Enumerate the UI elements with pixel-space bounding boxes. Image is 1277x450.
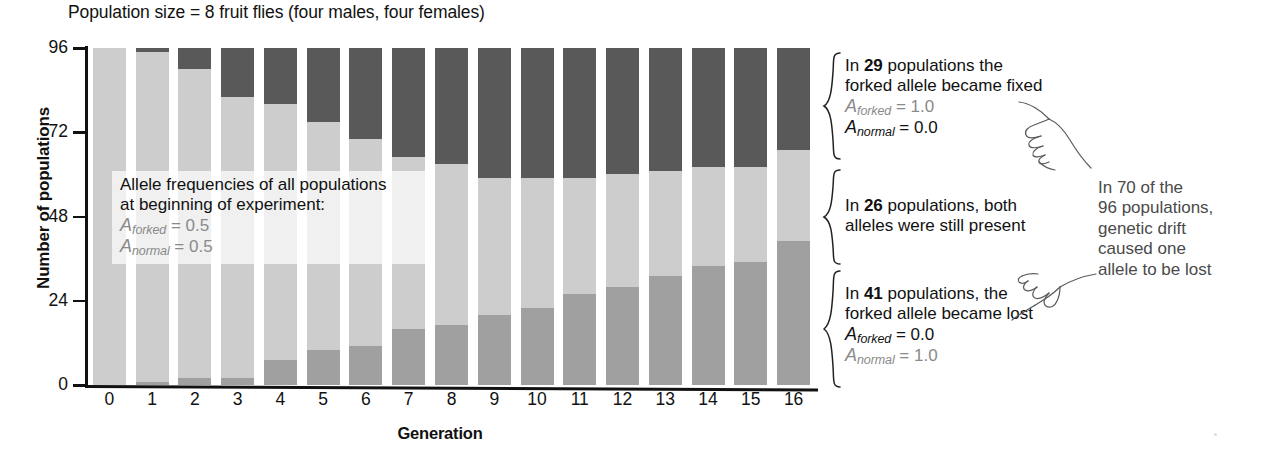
bar-segment-both-alleles-still-present <box>692 167 725 265</box>
annotation-forked-lost-line-2: forked allele became lost <box>845 304 1033 324</box>
bar-segment-both-alleles-still-present <box>435 164 468 325</box>
annotation-both-present-line-1: In 26 populations, both <box>845 196 1025 216</box>
bar-segment-forked-allele-became-fixed <box>435 48 468 164</box>
bar-segment-forked-allele-became-lost <box>264 360 297 385</box>
bar-segment-forked-allele-became-lost <box>649 276 682 385</box>
x-axis-tick-label-12: 12 <box>603 391 643 409</box>
inset-a-normal: Anormal = 0.5 <box>120 236 428 257</box>
chart-title: Population size = 8 fruit flies (four ma… <box>68 2 485 23</box>
y-axis-tick <box>73 384 86 387</box>
x-axis-tick-label-15: 15 <box>731 391 771 409</box>
bar-segment-forked-allele-became-fixed <box>349 48 382 139</box>
bar-segment-both-alleles-still-present <box>734 167 767 262</box>
brace-lost <box>822 270 844 388</box>
brace-fixed <box>822 52 844 160</box>
bar-segment-forked-allele-became-lost <box>307 350 340 385</box>
bar-segment-forked-allele-became-fixed <box>692 48 725 167</box>
inset-note-line-1: Allele frequencies of all populations <box>120 175 428 195</box>
y-axis-tick <box>73 300 86 303</box>
bar-segment-forked-allele-became-fixed <box>178 48 211 69</box>
bar-segment-forked-allele-became-fixed <box>392 48 425 157</box>
x-axis-tick-label-10: 10 <box>517 391 557 409</box>
x-axis-tick-label-2: 2 <box>175 391 215 409</box>
bar-generation-12 <box>606 48 639 385</box>
annotation-drift-line-4: caused one <box>1098 239 1213 259</box>
x-axis-tick-label-5: 5 <box>303 391 343 409</box>
y-axis-tick <box>73 47 86 50</box>
annotation-drift-line-5: allele to be lost <box>1098 260 1213 280</box>
bar-segment-forked-allele-became-lost <box>178 378 211 385</box>
annotation-lost-a-forked: Aforked = 0.0 <box>845 324 1033 345</box>
bar-segment-forked-allele-became-lost <box>478 315 511 385</box>
bar-segment-both-alleles-still-present <box>777 150 810 241</box>
x-axis-tick-label-16: 16 <box>774 391 814 409</box>
x-axis-tick-label-1: 1 <box>132 391 172 409</box>
y-axis-ticks: 024487296 <box>0 0 88 450</box>
annotation-fixed-a-forked: Aforked = 1.0 <box>845 96 1043 117</box>
bar-segment-forked-allele-became-lost <box>521 308 554 385</box>
y-axis-tick-label: 24 <box>0 292 68 310</box>
pointing-hand-icon <box>1015 100 1097 172</box>
y-axis-tick-label: 48 <box>0 208 68 226</box>
x-axis-tick-label-4: 4 <box>260 391 300 409</box>
bar-segment-forked-allele-became-lost <box>734 262 767 385</box>
bar-segment-both-alleles-still-present <box>563 178 596 294</box>
bar-generation-11 <box>563 48 596 385</box>
bar-segment-forked-allele-became-lost <box>349 346 382 385</box>
bar-segment-both-alleles-still-present <box>606 174 639 286</box>
y-axis-tick-label: 96 <box>0 39 68 57</box>
bar-generation-16 <box>777 48 810 385</box>
bar-segment-forked-allele-became-fixed <box>734 48 767 167</box>
bar-segment-forked-allele-became-lost <box>435 325 468 385</box>
bar-segment-forked-allele-became-lost <box>692 266 725 385</box>
bar-segment-forked-allele-became-lost <box>563 294 596 385</box>
bar-segment-both-alleles-still-present <box>478 178 511 315</box>
bar-segment-forked-allele-became-lost <box>777 241 810 385</box>
annotation-forked-lost-line-1: In 41 populations, the <box>845 284 1033 304</box>
bar-segment-forked-allele-became-fixed <box>136 48 169 52</box>
bar-generation-9 <box>478 48 511 385</box>
annotation-forked-fixed-line-1: In 29 populations the <box>845 56 1043 76</box>
x-axis-tick-label-7: 7 <box>389 391 429 409</box>
x-axis-tick-label-0: 0 <box>89 391 129 409</box>
y-axis-tick <box>73 131 86 134</box>
bar-segment-forked-allele-became-fixed <box>606 48 639 174</box>
annotation-forked-fixed: In 29 populations the forked allele beca… <box>845 56 1043 139</box>
bar-generation-10 <box>521 48 554 385</box>
bar-segment-forked-allele-became-lost <box>606 287 639 385</box>
annotation-lost-a-normal: Anormal = 1.0 <box>845 345 1033 366</box>
inset-a-forked: Aforked = 0.5 <box>120 215 428 236</box>
bar-generation-13 <box>649 48 682 385</box>
bar-segment-forked-allele-became-fixed <box>563 48 596 178</box>
bar-segment-forked-allele-became-fixed <box>478 48 511 178</box>
annotation-both-present: In 26 populations, both alleles were sti… <box>845 196 1025 236</box>
y-axis-tick-label: 0 <box>0 376 68 394</box>
bar-segment-forked-allele-became-lost <box>392 329 425 385</box>
page-speckle <box>1214 433 1217 436</box>
bar-segment-forked-allele-became-lost <box>221 378 254 385</box>
x-axis-tick-label-3: 3 <box>218 391 258 409</box>
bar-generation-14 <box>692 48 725 385</box>
y-axis-tick-label: 72 <box>0 123 68 141</box>
annotation-forked-lost: In 41 populations, the forked allele bec… <box>845 284 1033 367</box>
bar-generation-15 <box>734 48 767 385</box>
stacked-bar-chart-figure: Population size = 8 fruit flies (four ma… <box>0 0 1277 450</box>
annotation-genetic-drift: In 70 of the 96 populations, genetic dri… <box>1098 178 1213 280</box>
inset-note-box: Allele frequencies of all populations at… <box>112 171 434 264</box>
x-axis-tick-label-13: 13 <box>645 391 685 409</box>
bar-segment-both-alleles-still-present <box>521 178 554 308</box>
x-axis-tick-label-8: 8 <box>432 391 472 409</box>
bar-segment-forked-allele-became-fixed <box>777 48 810 150</box>
x-axis-title: Generation <box>0 424 880 443</box>
y-axis-tick <box>73 216 86 219</box>
bar-segment-forked-allele-became-fixed <box>521 48 554 178</box>
annotation-drift-line-2: 96 populations, <box>1098 198 1213 218</box>
annotation-drift-line-3: genetic drift <box>1098 219 1213 239</box>
bar-generation-8 <box>435 48 468 385</box>
bar-segment-forked-allele-became-fixed <box>221 48 254 97</box>
annotation-drift-line-1: In 70 of the <box>1098 178 1213 198</box>
bar-segment-forked-allele-became-lost <box>136 382 169 386</box>
inset-note-line-2: at beginning of experiment: <box>120 195 428 215</box>
x-axis-tick-label-6: 6 <box>346 391 386 409</box>
bar-segment-forked-allele-became-fixed <box>307 48 340 122</box>
